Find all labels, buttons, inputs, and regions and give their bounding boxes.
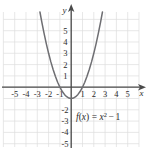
x-tick-label--2: -2: [45, 89, 52, 99]
x-tick-label-3: 3: [103, 89, 107, 99]
y-tick-label-3: 3: [63, 48, 67, 58]
function-label-equals: =: [92, 112, 97, 122]
x-axis-label: x: [139, 88, 144, 98]
x-tick-label-4: 4: [114, 89, 119, 99]
y-tick-label--2: -2: [61, 105, 68, 115]
function-label-close-paren: ): [86, 112, 89, 123]
x-tick-label--4: -4: [22, 89, 30, 99]
x-tick-label--5: -5: [11, 89, 18, 99]
coordinate-plane-figure: -5 -4 -3 -2 -1 1 2 3 4 5 5 4 3 2 1 -2 -3…: [0, 0, 150, 154]
x-tick-label--3: -3: [34, 89, 41, 99]
function-label-minus: −: [109, 112, 114, 122]
y-tick-label--4: -4: [61, 127, 69, 137]
y-tick-label-5: 5: [63, 26, 67, 36]
x-tick-label-2: 2: [92, 89, 96, 99]
x-tick-label-5: 5: [126, 89, 130, 99]
y-tick-label-2: 2: [63, 60, 67, 70]
function-label-exponent: 2: [104, 111, 107, 118]
function-label-constant: 1: [115, 112, 120, 122]
y-tick-label-1: 1: [63, 71, 67, 81]
graph-screenshot: -5 -4 -3 -2 -1 1 2 3 4 5 5 4 3 2 1 -2 -3…: [0, 0, 150, 154]
y-axis-label: y: [62, 5, 67, 15]
y-tick-label--5: -5: [61, 139, 68, 149]
y-tick-label--3: -3: [61, 116, 68, 126]
x-tick-label--1: -1: [56, 89, 63, 99]
